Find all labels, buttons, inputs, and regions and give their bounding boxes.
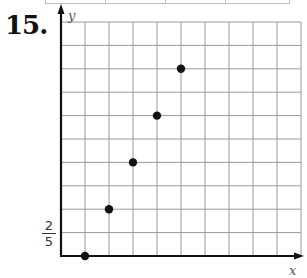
y-tick-denominator: 5 [45,234,53,249]
y-axis-label: y [67,8,76,23]
data-point [129,158,137,166]
data-point [177,65,185,73]
data-point [105,205,113,213]
x-axis-label: x [289,263,297,278]
data-point [81,252,89,260]
y-tick-numerator: 2 [45,218,53,233]
y-axis-arrow-icon [58,4,65,14]
y-tick-label: 2 5 [40,219,58,248]
data-point [153,111,161,119]
x-axis-arrow-icon [294,253,304,260]
grid-lines [61,22,301,256]
